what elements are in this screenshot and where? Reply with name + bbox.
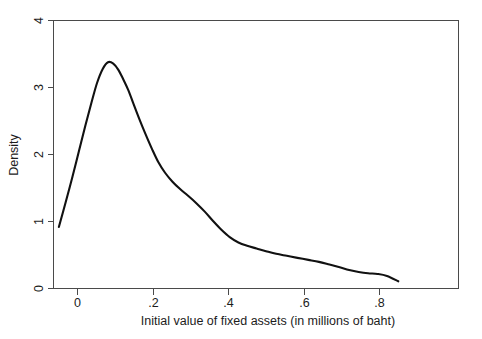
y-axis-ticks: 01234 <box>32 17 54 292</box>
density-plot: 01234 0.2.4.6.8 Density Initial value of… <box>0 0 482 339</box>
y-tick-label: 4 <box>32 17 46 24</box>
y-axis-title: Density <box>7 133 21 175</box>
x-axis-title: Initial value of fixed assets (in millio… <box>141 314 395 328</box>
x-tick-label: .2 <box>148 296 158 310</box>
chart-canvas: 01234 0.2.4.6.8 Density Initial value of… <box>0 0 482 339</box>
x-tick-label: .6 <box>299 296 309 310</box>
density-curve <box>59 62 398 281</box>
x-axis-ticks: 0.2.4.6.8 <box>74 289 385 311</box>
density-curve-group <box>59 62 398 281</box>
x-tick-label: .4 <box>223 296 233 310</box>
y-tick-label: 2 <box>32 151 46 158</box>
y-tick-label: 1 <box>32 218 46 225</box>
x-tick-label: .8 <box>374 296 384 310</box>
y-tick-label: 3 <box>32 84 46 91</box>
y-tick-label: 0 <box>32 285 46 292</box>
x-tick-label: 0 <box>74 296 81 310</box>
